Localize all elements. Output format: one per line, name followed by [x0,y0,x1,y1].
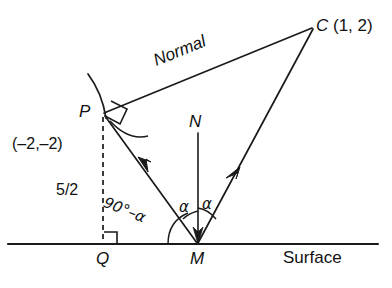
label-point-c-letter: C [316,16,328,35]
label-surface: Surface [283,249,342,266]
normal-line-pc [104,28,312,113]
label-angle-incidence: α [179,200,189,215]
right-angle-mark-at-q [104,232,117,244]
label-point-n: N [189,113,201,130]
angle-arc-at-p [110,121,148,137]
reflected-ray-mc [198,29,313,243]
label-point-q: Q [96,250,109,267]
label-point-p-coords: (–2,–2) [12,136,63,152]
label-point-m: M [190,250,204,267]
label-segment-pq-length: 5/2 [56,182,78,198]
incident-ray-pm [105,116,197,243]
diagram-canvas: C (1, 2) Normal P (–2,–2) 5/2 N 90°–α α … [0,0,392,288]
label-angle-reflection: α [202,197,212,212]
label-point-c: C (1, 2) [316,17,373,34]
mirror-surface-arc [88,74,106,118]
label-point-p: P [79,103,90,120]
